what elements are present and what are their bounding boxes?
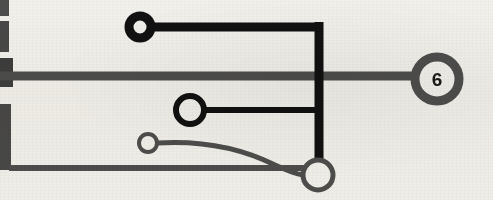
node-middle-black-ring bbox=[176, 96, 204, 124]
node-bottom-gray[interactable] bbox=[303, 160, 333, 190]
node-small-gray[interactable] bbox=[139, 134, 157, 152]
diagram-canvas: 6 bbox=[0, 0, 493, 200]
margin-bar-1 bbox=[0, 0, 9, 16]
schematic-figure: 6 bbox=[0, 0, 493, 200]
node-six-gray[interactable]: 6 bbox=[415, 57, 459, 101]
node-middle-black[interactable] bbox=[176, 96, 204, 124]
node-small-gray-ring bbox=[139, 134, 157, 152]
margin-bar-2 bbox=[0, 21, 9, 52]
margin-bar-group bbox=[0, 0, 13, 170]
margin-bar-4 bbox=[0, 104, 11, 170]
node-six-label: 6 bbox=[432, 69, 443, 90]
node-top-black[interactable] bbox=[129, 16, 151, 38]
node-top-black-ring bbox=[129, 16, 151, 38]
node-bottom-gray-ring bbox=[303, 160, 333, 190]
